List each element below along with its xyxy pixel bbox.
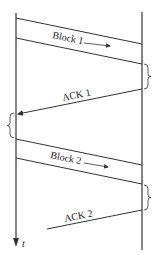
ack-1-transmission: ACK 1 bbox=[18, 87, 142, 114]
ack-2-transmission: ACK 2 bbox=[47, 208, 142, 229]
block-2-transmission: Block 2 bbox=[16, 139, 142, 184]
block-2-direction-arrow-icon bbox=[84, 163, 108, 167]
ack-2-label: ACK 2 bbox=[63, 208, 93, 224]
time-arrow-icon bbox=[13, 238, 19, 247]
processing-brace-2 bbox=[144, 185, 151, 210]
processing-brace-1 bbox=[144, 64, 151, 89]
stop-and-wait-diagram: t Block 1 ACK 1 Block 2 ACK 2 bbox=[0, 0, 160, 255]
timeout-brace bbox=[7, 113, 14, 138]
block-1-transmission: Block 1 bbox=[16, 18, 142, 64]
sender-timeline bbox=[13, 13, 19, 247]
time-axis-label: t bbox=[22, 238, 25, 249]
block-1-direction-arrow-icon bbox=[84, 43, 110, 46]
block-1-label: Block 1 bbox=[52, 29, 85, 46]
